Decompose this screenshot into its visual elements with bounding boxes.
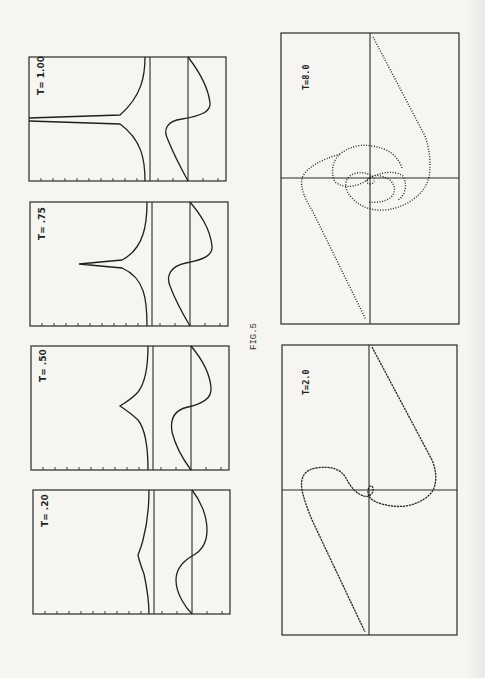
panel-t2: T=2.0 <box>282 345 457 635</box>
panel-label: T=8.0 <box>301 64 311 90</box>
panel-t8: T=8.0 <box>281 33 459 324</box>
panel-t020: T= .20 <box>33 490 230 614</box>
panel-frame <box>31 346 229 470</box>
figure-canvas: T= 1.00 T= .75 <box>0 0 485 678</box>
upper-curve <box>138 490 149 614</box>
panel-label: T=2.0 <box>301 369 311 395</box>
panel-frame <box>29 57 226 181</box>
upper-curve <box>79 202 147 326</box>
figure-caption: FIG.5 <box>249 323 259 350</box>
panel-frame <box>33 490 230 614</box>
panel-t050: T= .50 <box>31 346 229 470</box>
panel-label: T= .20 <box>40 494 50 527</box>
figure-page: T= 1.00 T= .75 <box>0 0 485 678</box>
panel-label: T= 1.00 <box>36 56 46 95</box>
upper-curve <box>120 346 148 470</box>
panel-t075: T= .75 <box>30 202 228 326</box>
panel-label: T= .50 <box>38 349 48 382</box>
panel-frame <box>30 202 228 326</box>
panel-label: T= .75 <box>37 207 47 240</box>
upper-curve <box>29 57 145 181</box>
panel-t100: T= 1.00 <box>29 56 226 181</box>
